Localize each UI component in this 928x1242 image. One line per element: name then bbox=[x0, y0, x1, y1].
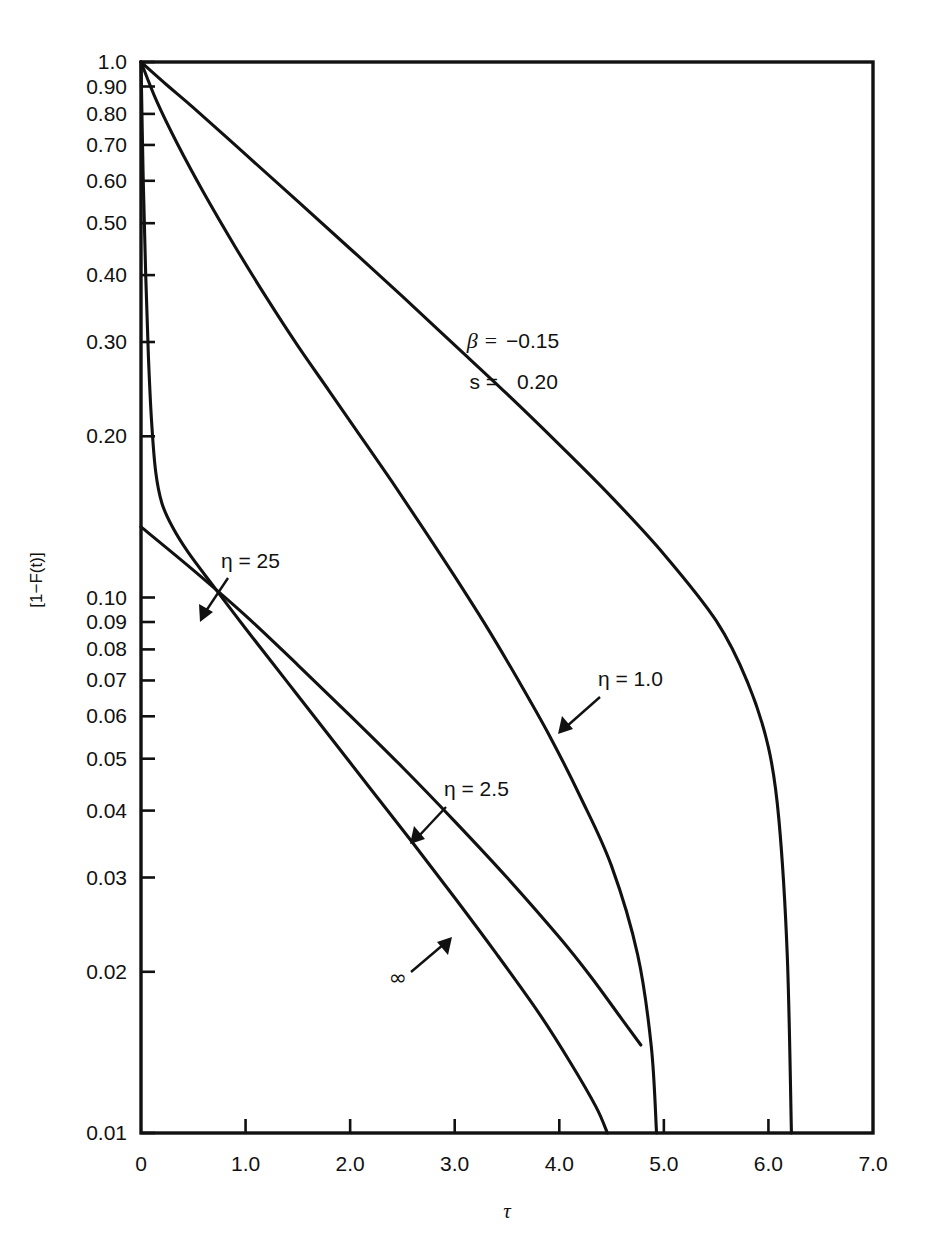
x-axis-tick-labels: 01.02.03.04.05.06.07.0 bbox=[135, 1152, 887, 1175]
y-tick-label: 1.0 bbox=[98, 50, 127, 73]
curve-label-infinity: ∞ bbox=[389, 965, 407, 990]
y-tick-label: 0.04 bbox=[86, 799, 127, 822]
curve-1.0 bbox=[141, 62, 791, 1133]
y-tick-label: 0.30 bbox=[86, 330, 127, 353]
y-tick-label: 0.07 bbox=[86, 668, 127, 691]
x-tick-label: 1.0 bbox=[231, 1152, 260, 1175]
x-tick-label: 3.0 bbox=[440, 1152, 469, 1175]
x-tick-label: 2.0 bbox=[336, 1152, 365, 1175]
y-axis-tick-labels: 1.00.900.800.700.600.500.400.300.200.100… bbox=[86, 50, 127, 1144]
curve-25 bbox=[141, 62, 607, 1133]
s-parameter-label: s = bbox=[469, 370, 498, 393]
x-tick-label: 4.0 bbox=[545, 1152, 574, 1175]
y-tick-label: 0.40 bbox=[86, 263, 127, 286]
y-tick-label: 0.09 bbox=[86, 610, 127, 633]
y-tick-label: 0.05 bbox=[86, 747, 127, 770]
s-parameter-value: 0.20 bbox=[517, 370, 558, 393]
curve-label-infinity-arrow bbox=[411, 937, 452, 972]
y-tick-label: 0.70 bbox=[86, 133, 127, 156]
x-axis-ticks bbox=[246, 1119, 769, 1133]
survival-function-chart: 1.00.900.800.700.600.500.400.300.200.100… bbox=[0, 0, 928, 1242]
x-tick-label: 0 bbox=[135, 1152, 147, 1175]
x-tick-label: 6.0 bbox=[754, 1152, 783, 1175]
y-tick-label: 0.20 bbox=[86, 424, 127, 447]
y-tick-label: 0.50 bbox=[86, 211, 127, 234]
plot-frame bbox=[141, 62, 873, 1133]
x-tick-label: 5.0 bbox=[649, 1152, 678, 1175]
beta-parameter-value: −0.15 bbox=[506, 329, 559, 352]
y-tick-label: 0.08 bbox=[86, 637, 127, 660]
figure-container: 1.00.900.800.700.600.500.400.300.200.100… bbox=[0, 0, 928, 1242]
x-axis-title: τ bbox=[503, 1199, 512, 1223]
data-curves bbox=[141, 62, 791, 1133]
y-tick-label: 0.03 bbox=[86, 866, 127, 889]
curve-label-eta-1: η = 1.0 bbox=[598, 667, 663, 690]
curve-label-eta-2-5: η = 2.5 bbox=[444, 777, 509, 800]
beta-parameter-label: β = bbox=[466, 328, 498, 353]
y-tick-label: 0.90 bbox=[86, 75, 127, 98]
curve-label-eta-25: η = 25 bbox=[221, 549, 280, 572]
y-tick-label: 0.01 bbox=[86, 1121, 127, 1144]
y-tick-label: 0.80 bbox=[86, 102, 127, 125]
x-tick-label: 7.0 bbox=[858, 1152, 887, 1175]
y-axis-title: [1−F(t)] bbox=[27, 552, 46, 607]
y-tick-label: 0.10 bbox=[86, 586, 127, 609]
curve-label-eta-2-5-arrow bbox=[410, 807, 446, 844]
y-tick-label: 0.06 bbox=[86, 704, 127, 727]
y-tick-label: 0.60 bbox=[86, 169, 127, 192]
curve-label-eta-1-arrow bbox=[558, 697, 600, 734]
y-tick-label: 0.02 bbox=[86, 960, 127, 983]
